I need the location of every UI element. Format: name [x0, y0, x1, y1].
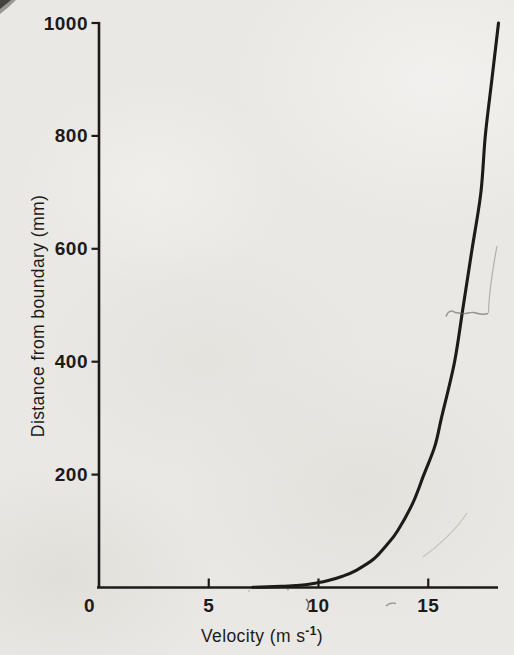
pencil-artifact-squiggle: [446, 311, 488, 316]
x-axis-title: Velocity (m s-1): [132, 624, 392, 648]
x-axis-title-exponent: -1: [305, 624, 316, 638]
scanned-figure-page: 0510152004006008001000 Distance from bou…: [0, 0, 514, 655]
x-axis-title-main: Velocity (m s: [201, 626, 305, 646]
plot-canvas: 0510152004006008001000: [0, 0, 514, 655]
pencil-artifact-speck: [248, 590, 250, 592]
pencil-artifact-faint-line: [489, 246, 498, 313]
x-tick-label-15: 15: [417, 595, 439, 616]
pencil-artifacts: [248, 246, 497, 610]
x-tick-label-5: 5: [203, 595, 214, 616]
pencil-artifact-dash: [386, 603, 396, 606]
x-tick-label-0: 0: [84, 595, 95, 616]
velocity-profile-curve: [253, 23, 499, 587]
y-tick-label-600: 600: [55, 238, 88, 259]
x-tick-label-10: 10: [307, 595, 329, 616]
ticks-layer: 0510152004006008001000: [44, 13, 440, 617]
y-tick-label-400: 400: [55, 351, 88, 372]
y-tick-label-200: 200: [55, 464, 88, 485]
y-axis-title: Distance from boundary (mm): [28, 166, 50, 466]
pencil-artifact-speck: [287, 589, 289, 591]
scan-smudge-corner: [0, 0, 16, 14]
y-tick-label-1000: 1000: [44, 13, 88, 34]
axes: [97, 22, 498, 588]
pencil-artifact-faint-arc: [423, 513, 467, 557]
y-tick-label-800: 800: [55, 125, 88, 146]
x-axis-title-end: ): [317, 626, 323, 646]
